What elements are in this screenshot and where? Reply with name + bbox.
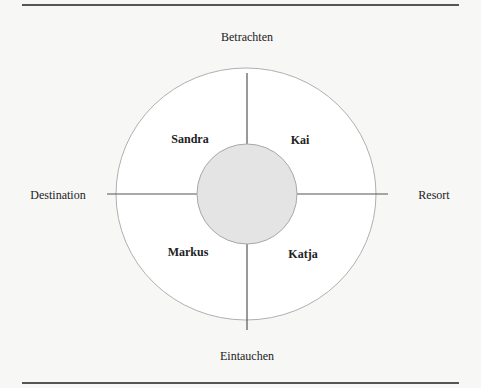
- quadrant-label-top-right: Kai: [291, 133, 310, 148]
- axis-label-right: Resort: [418, 188, 449, 203]
- axis-label-bottom: Eintauchen: [220, 349, 274, 364]
- quadrant-label-bottom-right: Katja: [288, 247, 317, 262]
- axis-label-top: Betrachten: [221, 30, 273, 45]
- bottom-rule: [22, 382, 459, 384]
- inner-circle: [197, 144, 297, 244]
- axis-label-left: Destination: [30, 188, 85, 203]
- quadrant-label-top-left: Sandra: [171, 132, 208, 147]
- quadrant-label-bottom-left: Markus: [168, 245, 209, 260]
